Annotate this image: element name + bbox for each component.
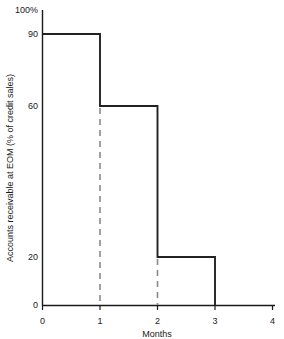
y-tick-label-0: 0: [33, 300, 38, 310]
y-tick-label-20: 20: [28, 252, 38, 262]
step-chart: 100% 90 60 20 0 0 1 2 3 4 Months Account…: [0, 0, 284, 339]
step-series-line: [43, 34, 216, 306]
chart-container: 100% 90 60 20 0 0 1 2 3 4 Months Account…: [0, 0, 284, 339]
y-tick-label-60: 60: [28, 101, 38, 111]
x-tick-label-3: 3: [212, 316, 217, 326]
x-axis-title: Months: [142, 329, 172, 339]
y-axis-title: Accounts receivable at EOM (% of credit …: [5, 74, 15, 262]
x-tick-label-4: 4: [270, 316, 275, 326]
x-tick-label-1: 1: [97, 316, 102, 326]
y-tick-label-90: 90: [28, 29, 38, 39]
x-tick-label-2: 2: [155, 316, 160, 326]
x-tick-label-0: 0: [40, 316, 45, 326]
y-tick-label-100: 100%: [15, 5, 38, 15]
